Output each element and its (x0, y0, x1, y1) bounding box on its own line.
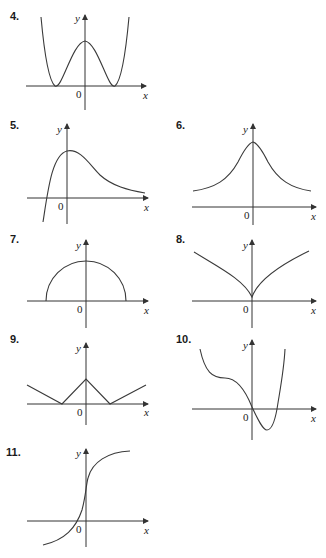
graph-7: y x 0 (27, 239, 149, 328)
graph-8: y x 0 (192, 239, 316, 328)
y-label: y (242, 339, 248, 351)
y-label: y (56, 123, 62, 135)
curve (193, 142, 311, 191)
x-label: x (310, 304, 316, 316)
origin-label: 0 (244, 209, 250, 221)
y-label: y (75, 239, 81, 251)
origin-label: 0 (243, 303, 249, 315)
x-label: x (143, 406, 149, 418)
origin-label: 0 (77, 406, 83, 418)
graph-10: y x 0 (192, 339, 316, 440)
x-label: x (142, 89, 148, 101)
x-label: x (143, 201, 149, 213)
x-label: x (310, 210, 316, 222)
graph-6: y x 0 (192, 123, 316, 225)
origin-label: 0 (77, 303, 83, 315)
x-label: x (310, 412, 316, 424)
x-label: x (143, 524, 149, 536)
x-label: x (143, 304, 149, 316)
origin-label: 0 (243, 411, 249, 423)
y-label: y (75, 342, 81, 354)
graph-4: y x 0 (26, 12, 148, 110)
y-label: y (74, 12, 80, 24)
y-label: y (242, 239, 248, 251)
graphs-canvas: y x 0 y x 0 y x 0 y x 0 y x 0 (0, 0, 326, 558)
y-label: y (75, 447, 81, 459)
origin-label: 0 (76, 523, 82, 535)
graph-11: y x 0 (27, 447, 149, 547)
origin-label: 0 (58, 200, 64, 212)
origin-label: 0 (76, 88, 82, 100)
graph-9: y x 0 (27, 342, 149, 425)
y-label: y (242, 123, 248, 135)
graph-5: y x 0 (27, 123, 149, 224)
